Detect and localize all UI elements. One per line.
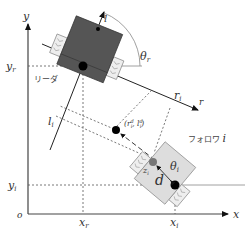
follower-y-label: yi — [7, 179, 16, 193]
leader-x-label: xr — [79, 216, 89, 230]
leader-follower-diagram: y x o r l yr リーダ θr xr ri li (rdi, ldi — [0, 0, 250, 240]
desired-point — [112, 126, 120, 134]
y-axis-label: y — [22, 10, 30, 23]
origin-label: o — [17, 210, 23, 220]
li-label: li — [48, 115, 54, 129]
leader-y-label: yr — [5, 60, 16, 74]
desired-point-label: (rdi, ldi) — [124, 118, 144, 129]
leader-front-point — [96, 27, 100, 31]
follower-z-point — [149, 158, 157, 166]
x-axis-label: x — [233, 208, 240, 221]
leader-center-point — [79, 62, 88, 71]
li-projection — [60, 106, 114, 129]
follower-robot — [126, 135, 204, 212]
ri-label: ri — [174, 89, 182, 103]
leader-name-label: リーダ — [34, 74, 58, 84]
follower-x-label: xi — [170, 216, 178, 230]
follower-center-point — [171, 181, 180, 190]
follower-name-label: フォロワ i — [188, 132, 226, 145]
l-axis-label: l — [104, 13, 107, 24]
follower-d-label: d — [155, 172, 164, 188]
r-axis-label: r — [199, 97, 204, 107]
leader-theta-label: θr — [140, 50, 151, 64]
